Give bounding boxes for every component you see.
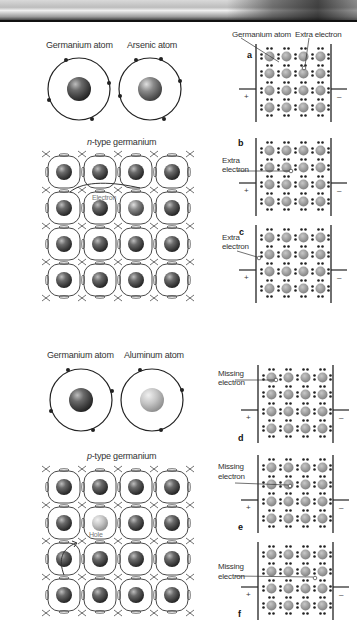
svg-text:–: – (337, 186, 342, 195)
panel-d-missing-label: Missing (218, 369, 244, 378)
panel-c-electron-label: electron (222, 242, 249, 251)
hole-annotation: Hole (89, 531, 103, 538)
germanium-atom-diagram (44, 55, 116, 125)
germanium-atom-label: Germanium atom (46, 40, 113, 50)
panel-f-letter: f (238, 609, 241, 619)
svg-text:+: + (244, 92, 249, 101)
svg-text:+: + (244, 273, 249, 282)
panel-d-letter: d (238, 433, 243, 443)
svg-text:–: – (339, 503, 344, 512)
germanium-atom-label-p: Germanium atom (47, 350, 114, 360)
svg-text:+: + (246, 503, 251, 512)
panel-a-extra-electron-label: Extra electron (295, 30, 342, 39)
panel-e-electron-label: electron (218, 472, 245, 481)
svg-text:–: – (339, 413, 344, 422)
panel-a-germanium-label: Germanium atom (232, 30, 291, 39)
panel-e-letter: e (238, 522, 243, 532)
arsenic-atom-label: Arsenic atom (127, 40, 177, 50)
n-type-lattice-title: n-type germanium (87, 137, 156, 147)
svg-text:–: – (337, 92, 342, 101)
aluminum-atom-label: Aluminum atom (124, 350, 184, 360)
header-rule (0, 20, 357, 22)
panel-c-crystal: +– (251, 225, 341, 305)
p-type-lattice (44, 467, 190, 615)
panel-b-extra-label: Extra (222, 156, 240, 165)
panel-f-missing-label: Missing (218, 562, 244, 571)
panel-d-electron-label: electron (218, 378, 245, 387)
n-type-title-rest: -type germanium (92, 137, 157, 147)
svg-text:+: + (244, 186, 249, 195)
panel-e-crystal: +– (253, 455, 343, 535)
panel-b-crystal: +– (251, 138, 341, 218)
germanium-atom-diagram-p (46, 366, 118, 436)
panel-b-electron-label: electron (222, 165, 249, 174)
svg-text:–: – (337, 273, 342, 282)
svg-text:+: + (246, 590, 251, 599)
panel-d-crystal: +– (253, 365, 343, 445)
n-type-lattice (44, 152, 190, 292)
p-type-title-rest: -type germanium (92, 451, 157, 461)
panel-b-letter: b (238, 138, 243, 148)
aluminum-atom-diagram (118, 366, 190, 436)
electron-annotation: Electron (92, 194, 116, 201)
arsenic-atom-diagram (116, 55, 188, 125)
panel-f-crystal: +– (253, 542, 343, 622)
panel-c-extra-label: Extra (222, 233, 240, 242)
panel-a-crystal: +– (251, 44, 341, 124)
panel-f-electron-label: electron (218, 572, 245, 581)
svg-text:+: + (246, 413, 251, 422)
svg-text:–: – (339, 590, 344, 599)
header-photo-band-dark (227, 0, 357, 21)
p-type-lattice-title: p-type germanium (87, 451, 156, 461)
panel-e-missing-label: Missing (218, 462, 244, 471)
